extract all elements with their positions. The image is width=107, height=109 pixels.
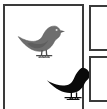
screenshot-root <box>0 0 107 109</box>
side-panel-top <box>89 5 107 51</box>
bird-illustration-panel <box>3 4 84 109</box>
side-panel-bottom <box>89 56 107 102</box>
